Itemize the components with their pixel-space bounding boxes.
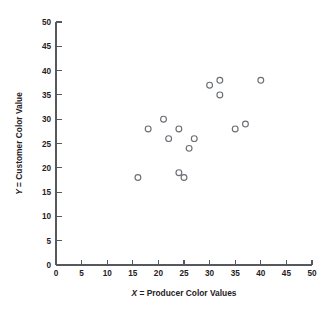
x-tick-label-50: 50	[307, 269, 317, 278]
data-points-group	[135, 77, 264, 180]
y-tick-label-30: 30	[42, 115, 52, 124]
y-tick-label-45: 45	[42, 42, 52, 51]
axes-group	[56, 22, 312, 265]
data-point	[145, 126, 151, 132]
y-tick-label-40: 40	[42, 67, 52, 76]
data-point	[217, 92, 223, 98]
tick-labels-group: 0510152025303540455005101520253035404550	[42, 18, 317, 278]
data-point	[161, 116, 167, 122]
y-tick-label-25: 25	[42, 140, 52, 149]
data-point	[176, 170, 182, 176]
x-tick-label-20: 20	[154, 269, 164, 278]
x-tick-label-5: 5	[79, 269, 84, 278]
y-axis-title-text: = Customer Color Value	[14, 92, 24, 189]
y-tick-label-35: 35	[42, 91, 52, 100]
x-tick-label-0: 0	[54, 269, 59, 278]
y-tick-label-0: 0	[46, 261, 51, 270]
x-tick-label-15: 15	[128, 269, 138, 278]
y-tick-label-50: 50	[42, 18, 52, 27]
y-axis-title: Y = Customer Color Value	[14, 92, 24, 195]
x-tick-label-45: 45	[282, 269, 292, 278]
plot-canvas: 0510152025303540455005101520253035404550…	[0, 0, 334, 311]
x-tick-label-30: 30	[205, 269, 215, 278]
data-point	[217, 77, 223, 83]
x-axis-title-text: = Producer Color Values	[137, 288, 237, 298]
ticks-group	[56, 22, 312, 265]
data-point	[243, 121, 249, 127]
x-tick-label-40: 40	[256, 269, 266, 278]
y-tick-label-10: 10	[42, 212, 52, 221]
data-point	[135, 175, 141, 181]
y-tick-label-5: 5	[46, 237, 51, 246]
data-point	[207, 82, 213, 88]
x-tick-label-10: 10	[103, 269, 113, 278]
data-point	[232, 126, 238, 132]
data-point	[258, 77, 264, 83]
y-tick-label-15: 15	[42, 188, 52, 197]
data-point	[166, 136, 172, 142]
data-point	[181, 175, 187, 181]
x-tick-label-35: 35	[231, 269, 241, 278]
data-point	[191, 136, 197, 142]
data-point	[186, 145, 192, 151]
scatter-plot-figure: 0510152025303540455005101520253035404550…	[0, 0, 334, 311]
x-axis-title: X = Producer Color Values	[131, 288, 237, 298]
data-point	[176, 126, 182, 132]
x-tick-label-25: 25	[179, 269, 189, 278]
y-tick-label-20: 20	[42, 164, 52, 173]
